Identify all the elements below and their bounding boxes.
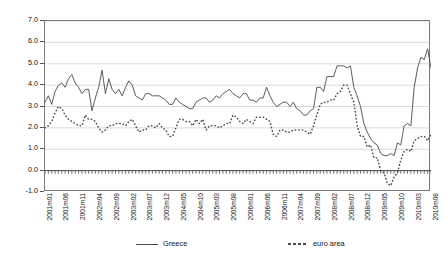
x-tick-label: 2007m04	[298, 193, 305, 221]
x-tick-label: 2003m02	[131, 193, 138, 221]
y-tick-mark	[40, 127, 44, 128]
plot-area	[44, 20, 430, 191]
y-tick-label: 0.0	[28, 166, 38, 173]
x-tick-label: 2004m05	[181, 193, 188, 221]
x-tick-label: 2003m07	[147, 193, 154, 221]
x-tick-label: 2006m06	[265, 193, 272, 221]
legend-item-euro-area: euro area	[286, 240, 345, 248]
y-tick-mark	[40, 106, 44, 107]
solid-line-key-icon	[136, 240, 158, 248]
x-tick-label: 2005m03	[214, 193, 221, 221]
x-tick-label: 2008m12	[365, 193, 372, 221]
x-tick-label: 2007m09	[315, 193, 322, 221]
x-axis: 2001m012001m062001m112002m042002m092003m…	[0, 193, 447, 243]
y-tick-mark	[40, 84, 44, 85]
x-tick-label: 2001m06	[63, 193, 70, 221]
dotted-line-key-icon	[286, 240, 308, 248]
legend-label-greece: Greece	[163, 240, 187, 248]
x-tick-label: 2006m11	[282, 193, 289, 220]
legend-label-euro-area: euro area	[313, 240, 345, 248]
y-tick-label: 2.0	[28, 123, 38, 130]
y-tick-mark	[40, 148, 44, 149]
y-tick-mark	[40, 170, 44, 171]
legend-item-greece: Greece	[136, 240, 187, 248]
x-tick-label: 2003m12	[164, 193, 171, 221]
x-axis-tick-marks	[45, 171, 431, 174]
data-series-group	[45, 49, 431, 186]
x-tick-label: 2010m08	[433, 193, 440, 221]
x-tick-label: 2009m05	[382, 193, 389, 221]
chart-legend: Greece euro area	[0, 240, 447, 256]
y-tick-label: 1.0	[28, 144, 38, 151]
x-tick-label: 2010m03	[416, 193, 423, 221]
y-tick-mark	[40, 63, 44, 64]
y-tick-label: 6.0	[28, 37, 38, 44]
y-tick-label: 4.0	[28, 80, 38, 87]
x-tick-label: 2008m07	[349, 193, 356, 221]
y-tick-mark	[40, 20, 44, 21]
y-axis: -1.00.01.02.03.04.05.06.07.0	[0, 0, 44, 211]
x-tick-label: 2004m10	[198, 193, 205, 221]
plot-svg	[45, 21, 431, 192]
y-tick-label: 5.0	[28, 59, 38, 66]
x-tick-label: 2005m08	[231, 193, 238, 221]
y-tick-mark	[40, 41, 44, 42]
gridlines	[45, 21, 431, 171]
x-tick-label: 2008m02	[332, 193, 339, 221]
x-tick-label: 2009m10	[399, 193, 406, 221]
y-tick-label: 7.0	[28, 16, 38, 23]
x-tick-label: 2001m01	[47, 193, 54, 221]
x-tick-label: 2006m01	[248, 193, 255, 221]
x-tick-label: 2002m09	[114, 193, 121, 221]
y-tick-label: 3.0	[28, 102, 38, 109]
inflation-line-chart: -1.00.01.02.03.04.05.06.07.0 2001m012001…	[0, 0, 447, 262]
x-tick-label: 2002m04	[97, 193, 104, 221]
series-line-greece	[45, 49, 431, 156]
y-tick-mark	[40, 191, 44, 192]
x-tick-label: 2001m11	[80, 193, 87, 220]
